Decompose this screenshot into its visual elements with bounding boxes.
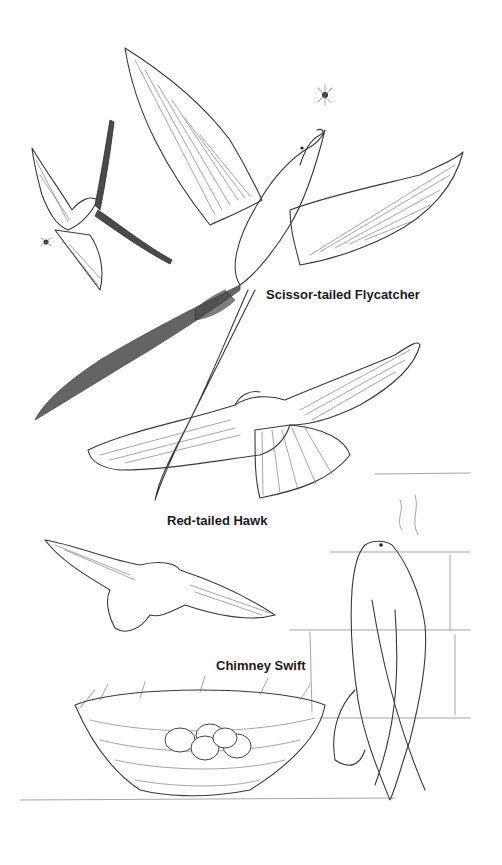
label-scissor-tailed-flycatcher: Scissor-tailed Flycatcher <box>266 287 420 302</box>
red-tailed-hawk-soaring <box>88 343 420 498</box>
scissor-tailed-flycatcher-large <box>35 48 463 500</box>
scissor-tailed-flycatcher-small <box>32 120 172 290</box>
nest-with-eggs <box>20 676 395 800</box>
label-chimney-swift: Chimney Swift <box>216 658 306 673</box>
red-tailed-hawk-flying <box>45 540 275 631</box>
insect-small <box>41 238 51 246</box>
chimney-swift <box>334 541 426 800</box>
chimney-brick-wall <box>290 473 470 718</box>
label-red-tailed-hawk: Red-tailed Hawk <box>167 513 267 528</box>
bird-illustration <box>0 0 502 865</box>
insect-fly <box>318 85 332 105</box>
